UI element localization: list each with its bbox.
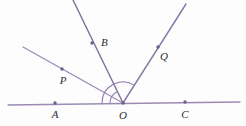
point-q-label: Q (160, 50, 168, 62)
point-b-label: B (101, 36, 108, 48)
point-o-dot (121, 101, 124, 104)
point-p-dot (60, 67, 63, 70)
point-o-label: O (119, 109, 127, 121)
point-a-dot (53, 101, 56, 104)
point-b-dot (90, 41, 93, 44)
point-p-label: P (59, 74, 67, 86)
point-q-dot (156, 45, 159, 48)
ray-op (23, 47, 123, 103)
point-c-dot (183, 100, 186, 103)
ray-ob (73, 0, 123, 103)
geometry-diagram: A O C P B Q (0, 0, 246, 126)
geometry-canvas: A O C P B Q (0, 0, 246, 126)
point-a-label: A (51, 108, 59, 120)
point-c-label: C (181, 108, 189, 120)
ray-oq (123, 4, 186, 103)
